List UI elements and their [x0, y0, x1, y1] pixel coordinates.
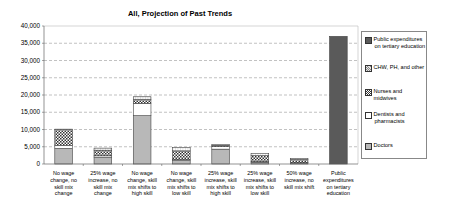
- y-tick-label: 15,000: [21, 108, 41, 115]
- bar-segment: [290, 158, 308, 159]
- legend-label: Public expenditureson tertiary education: [374, 36, 426, 50]
- bar-segment: [133, 104, 151, 116]
- bar-segment: [173, 147, 191, 150]
- y-tick-label: 35,000: [21, 39, 41, 46]
- bar-segment: [94, 148, 112, 150]
- bar-segment: [173, 151, 191, 160]
- x-axis-label: No wagechange, noskill mixchange: [46, 170, 82, 197]
- legend-swatch-icon: [365, 37, 372, 44]
- bar-segment: [212, 146, 230, 149]
- x-axis-label: 25% wageincrease, skillmix shifts tohigh…: [203, 170, 239, 197]
- bar-segment: [212, 145, 230, 146]
- bar-segment: [173, 161, 191, 164]
- legend-label: CHW, PH, and other: [374, 64, 425, 71]
- legend-item: CHW, PH, and other: [365, 64, 424, 72]
- x-axis-label: Publicexpenditureson tertiaryeducation: [320, 170, 356, 197]
- bar-segment: [94, 150, 112, 156]
- x-axis-label: No wagechange, skillmix shifts tolow ski…: [163, 170, 199, 197]
- legend-item: Public expenditureson tertiary education: [365, 36, 425, 50]
- y-tick-label: 30,000: [21, 57, 41, 64]
- bar-segment: [251, 156, 269, 162]
- legend-swatch-icon: [365, 89, 372, 96]
- bar-segment: [330, 36, 348, 164]
- legend-swatch-icon: [365, 112, 372, 119]
- legend-item: Doctors: [365, 142, 393, 150]
- bar-segment: [212, 149, 230, 164]
- bar-segment: [55, 146, 73, 149]
- legend-label: Doctors: [374, 142, 393, 149]
- chart-legend: Public expenditureson tertiary education…: [361, 31, 427, 159]
- x-axis-label: No wagechange, skillmix shifts tohigh sk…: [124, 170, 160, 197]
- bar-segment: [133, 116, 151, 164]
- legend-item: Nurses and midwives: [365, 88, 426, 102]
- legend-swatch-icon: [365, 65, 372, 72]
- bar-segment: [251, 154, 269, 156]
- y-tick-label: 0: [36, 160, 40, 167]
- bar-segment: [55, 148, 73, 164]
- bar-segment: [55, 130, 73, 146]
- y-tick-label: 40,000: [21, 22, 41, 29]
- bar-segment: [133, 99, 151, 103]
- y-tick-label: 20,000: [21, 91, 41, 98]
- legend-item: Dentists andpharmacists: [365, 111, 405, 125]
- x-axis-label: 25% wageincrease, noskill mixchange: [85, 170, 121, 197]
- bar-segment: [133, 97, 151, 100]
- legend-swatch-icon: [365, 143, 372, 150]
- y-tick-label: 5,000: [24, 143, 40, 150]
- legend-label: Dentists andpharmacists: [374, 111, 405, 125]
- y-tick-label: 25,000: [21, 74, 41, 81]
- x-axis-label: 50% wageincrease, noskill mix shift: [281, 170, 317, 190]
- x-axis-label: 25% wageincrease, skillmix shifts tolow …: [242, 170, 278, 197]
- bar-segment: [94, 157, 112, 164]
- bar-segment: [290, 160, 308, 163]
- y-tick-label: 10,000: [21, 126, 41, 133]
- legend-label: Nurses and midwives: [374, 88, 427, 102]
